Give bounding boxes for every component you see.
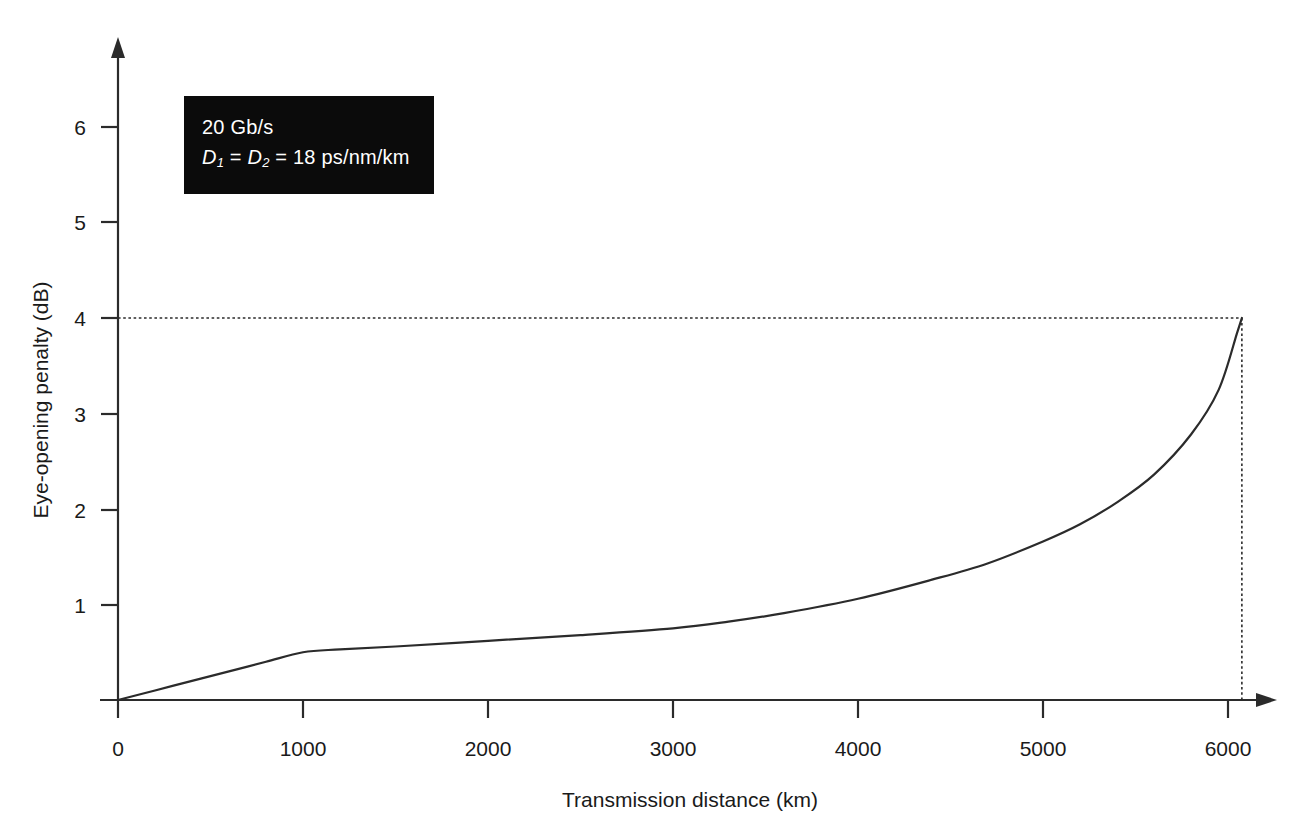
y-ticks-group bbox=[101, 127, 118, 605]
parameter-legend-box: 20 Gb/s D1 = D2 = 18 ps/nm/km bbox=[184, 96, 434, 194]
chart-figure: 1 2 3 4 5 6 0 1000 2000 3000 4000 5000 6… bbox=[0, 0, 1308, 839]
legend-dispersion-sub2: 2 bbox=[262, 155, 269, 170]
x-tick-labels-group: 0 1000 2000 3000 4000 5000 6000 bbox=[112, 737, 1251, 760]
x-tick-label-6000: 6000 bbox=[1205, 737, 1252, 760]
x-ticks-group bbox=[118, 700, 1228, 718]
legend-dispersion: D1 = D2 = 18 ps/nm/km bbox=[202, 142, 434, 178]
annotation-guides-group bbox=[118, 318, 1242, 700]
x-tick-label-5000: 5000 bbox=[1020, 737, 1067, 760]
legend-bitrate: 20 Gb/s bbox=[202, 112, 434, 142]
x-tick-label-3000: 3000 bbox=[650, 737, 697, 760]
x-tick-label-1000: 1000 bbox=[280, 737, 327, 760]
x-tick-label-0: 0 bbox=[112, 737, 124, 760]
legend-dispersion-sub1: 1 bbox=[217, 155, 224, 170]
x-tick-label-4000: 4000 bbox=[835, 737, 882, 760]
y-axis-title: Eye-opening penalty (dB) bbox=[29, 282, 52, 519]
y-tick-labels-group: 1 2 3 4 5 6 bbox=[74, 116, 86, 617]
y-tick-label-3: 3 bbox=[74, 403, 86, 426]
y-axis-arrowhead bbox=[111, 37, 125, 58]
y-tick-label-4: 4 bbox=[74, 307, 86, 330]
penalty-curve bbox=[118, 318, 1242, 700]
y-tick-label-1: 1 bbox=[74, 594, 86, 617]
legend-dispersion-value: = 18 ps/nm/km bbox=[270, 146, 410, 168]
y-tick-label-6: 6 bbox=[74, 116, 86, 139]
legend-dispersion-d1: D bbox=[202, 146, 217, 168]
legend-dispersion-eq1: = bbox=[224, 146, 247, 168]
y-tick-label-5: 5 bbox=[74, 211, 86, 234]
x-tick-label-2000: 2000 bbox=[465, 737, 512, 760]
x-axis-title: Transmission distance (km) bbox=[562, 788, 818, 811]
y-tick-label-2: 2 bbox=[74, 499, 86, 522]
legend-dispersion-d2: D bbox=[248, 146, 263, 168]
x-axis-arrowhead bbox=[1256, 693, 1277, 707]
